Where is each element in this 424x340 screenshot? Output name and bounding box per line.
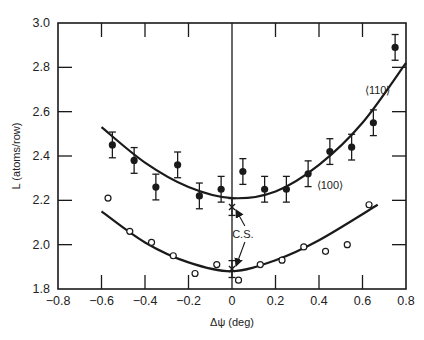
plot-frame xyxy=(58,23,406,289)
y-tick-label: 2.8 xyxy=(33,60,50,74)
y-tick-label: 2.6 xyxy=(33,105,50,119)
filled-circle-marker xyxy=(196,192,203,199)
x-tick-label: −0.2 xyxy=(176,294,201,308)
x-tick-labels: −0.8−0.6−0.4−0.200.20.40.60.8 xyxy=(46,294,415,308)
y-tick-label: 2.0 xyxy=(33,238,50,252)
open-circle-marker xyxy=(323,248,329,254)
open-circle-marker xyxy=(279,257,285,263)
annotation-label: ⟨110⟩ xyxy=(365,84,391,96)
y-tick-label: 2.2 xyxy=(33,193,50,207)
open-circle-marker xyxy=(366,202,372,208)
open-circle-marker xyxy=(127,228,133,234)
annotation-label: C.S. xyxy=(232,228,253,240)
y-tick-label: 3.0 xyxy=(33,16,50,30)
open-circle-marker xyxy=(236,277,242,283)
open-circle-marker xyxy=(257,262,263,268)
open-circle-marker xyxy=(149,239,155,245)
filled-circle-marker xyxy=(392,44,399,51)
annotation-arrow xyxy=(236,242,245,266)
filled-circle-marker xyxy=(218,186,225,193)
x-tick-label: 0.2 xyxy=(267,294,284,308)
x-tick-label: −0.8 xyxy=(46,294,71,308)
open-circle-marker xyxy=(170,253,176,259)
x-tick-label: 0.8 xyxy=(397,294,414,308)
chart-canvas: −0.8−0.6−0.4−0.200.20.40.60.8 1.82.02.22… xyxy=(0,0,424,340)
y-axis-title: L (atoms/row) xyxy=(10,123,22,190)
filled-circle-marker xyxy=(109,141,116,148)
y-tick-label: 1.8 xyxy=(33,282,50,296)
filled-circle-marker xyxy=(305,170,312,177)
filled-circle-marker xyxy=(152,183,159,190)
x-tick-label: −0.4 xyxy=(133,294,158,308)
y-tick-label: 2.4 xyxy=(33,149,50,163)
y-tick-labels: 1.82.02.22.42.62.83.0 xyxy=(33,16,50,296)
open-circle-marker xyxy=(344,242,350,248)
filled-circle-marker xyxy=(348,144,355,151)
x-tick-label: −0.6 xyxy=(89,294,114,308)
filled-circle-marker xyxy=(131,157,138,164)
annotation-arrow xyxy=(236,210,245,226)
filled-circle-marker xyxy=(261,186,268,193)
x-axis-title: Δψ (deg) xyxy=(210,316,254,328)
x-tick-label: 0.6 xyxy=(354,294,371,308)
filled-circle-marker xyxy=(370,119,377,126)
open-circle-marker xyxy=(105,195,111,201)
filled-circle-marker xyxy=(283,186,290,193)
open-circle-marker xyxy=(192,270,198,276)
fit-curves xyxy=(102,63,407,271)
x-tick-label: 0 xyxy=(229,294,236,308)
fit-curve xyxy=(102,63,407,198)
x-tick-label: 0.4 xyxy=(310,294,327,308)
filled-circle-marker xyxy=(174,161,181,168)
open-circle-marker xyxy=(301,244,307,250)
open-circle-marker xyxy=(214,262,220,268)
filled-circle-marker xyxy=(239,168,246,175)
filled-circle-marker xyxy=(326,148,333,155)
annotation-label: ⟨100⟩ xyxy=(317,179,343,191)
